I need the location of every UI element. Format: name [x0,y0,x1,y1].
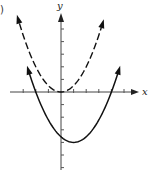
graph-canvas: ) x y [0,0,151,174]
solid-parabola [29,72,118,143]
axes [10,20,133,170]
solid-right-arrow-icon [115,66,121,76]
x-axis-arrow-icon [131,89,139,95]
y-axis-arrow-icon [58,13,64,22]
dashed-left-arrow-icon [17,15,23,24]
y-axis-label: y [56,0,63,11]
figure-corner-label: ) [0,4,4,15]
x-axis-label: x [142,86,148,97]
solid-left-arrow-icon [27,66,33,76]
dashed-right-arrow-icon [98,19,104,29]
